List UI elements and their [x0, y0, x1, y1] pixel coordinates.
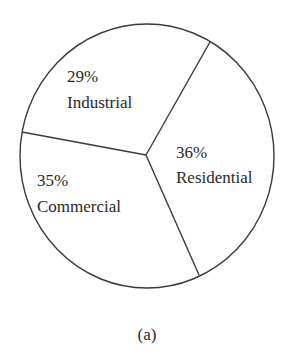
commercial-percent: 35% — [37, 171, 68, 190]
residential-percent: 36% — [176, 143, 207, 162]
pie-slices — [20, 24, 274, 288]
pie-chart: 29% Industrial 36% Residential 35% Comme… — [0, 0, 291, 359]
industrial-label: Industrial — [67, 93, 132, 112]
figure-caption: (a) — [138, 325, 157, 344]
commercial-label: Commercial — [37, 197, 121, 216]
residential-label: Residential — [176, 168, 253, 187]
industrial-percent: 29% — [67, 67, 98, 86]
